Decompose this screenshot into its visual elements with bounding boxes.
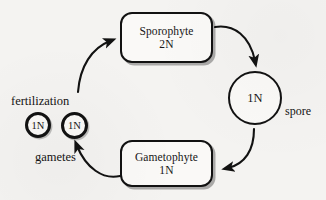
node-gametophyte-name: Gametophyte — [135, 151, 198, 164]
node-gametophyte[interactable]: Gametophyte 1N — [120, 140, 213, 187]
node-sporophyte-ploidy: 2N — [159, 38, 173, 51]
node-sporophyte[interactable]: Sporophyte 2N — [120, 12, 213, 63]
node-gamete-right[interactable]: 1N — [61, 112, 88, 139]
arrow-sporophyte-to-spore — [215, 27, 255, 61]
node-gamete-left[interactable]: 1N — [25, 112, 51, 138]
label-spore: spore — [285, 104, 311, 119]
arrow-spore-to-gametophyte — [228, 129, 254, 168]
node-gametophyte-ploidy: 1N — [159, 164, 173, 177]
node-gamete-right-ploidy-label: 1N — [68, 120, 81, 131]
arrow-gametophyte-to-gametes — [77, 146, 120, 177]
node-sporophyte-name: Sporophyte — [139, 25, 193, 38]
node-gamete-left-ploidy-label: 1N — [32, 120, 45, 131]
label-gametes: gametes — [35, 150, 76, 165]
arrow-fertilization-to-sporophyte — [78, 41, 110, 92]
life-cycle-diagram: Sporophyte 2N Gametophyte 1N 1N 1N 1N fe… — [0, 0, 326, 200]
node-spore-circle[interactable]: 1N — [228, 71, 282, 125]
node-spore-ploidy-label: 1N — [247, 91, 262, 106]
label-fertilization: fertilization — [11, 94, 69, 109]
